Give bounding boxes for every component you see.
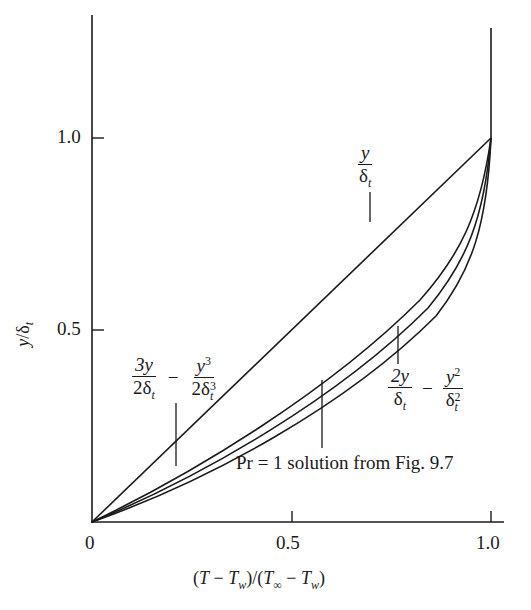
- fraction-den: δt: [356, 165, 374, 189]
- x-tick-label-0: 0: [85, 532, 95, 554]
- num-y: y: [197, 355, 205, 376]
- minus-sign: −: [422, 378, 433, 399]
- y-axis-label-delta: δ: [13, 325, 33, 333]
- num-sup: 2: [454, 365, 460, 379]
- x-tick-label-1: 1.0: [476, 532, 500, 554]
- y-tick-label-05: 0.5: [57, 318, 81, 340]
- x-label-T2: T: [228, 568, 238, 588]
- fraction-den: δt: [391, 388, 409, 412]
- den-delta: δ: [359, 165, 368, 186]
- den-delta: δ: [394, 388, 403, 409]
- y-axis-label-t: t: [22, 322, 36, 325]
- fraction-num: y: [358, 143, 372, 165]
- x-label-w2: w: [311, 578, 319, 592]
- fraction-quad-1: 2y δt: [388, 366, 412, 412]
- x-label-T4: T: [301, 568, 311, 588]
- fraction-num: 3y: [132, 355, 156, 377]
- minus-sign: −: [168, 367, 179, 388]
- fraction-num: 2y: [388, 366, 412, 388]
- fraction-quad-2: y2 δ2t: [443, 366, 464, 412]
- x-label-T1: T: [199, 568, 209, 588]
- annotation-cubic: 3y 2δt − y3 2δ3t: [130, 355, 219, 401]
- x-tick-label-05: 0.5: [276, 532, 300, 554]
- x-axis-label: (T − Tw)/(T∞ − Tw): [193, 568, 325, 593]
- fraction-num: y2: [443, 366, 463, 389]
- fraction-den: δ2t: [443, 389, 464, 412]
- den-sub: t: [455, 402, 461, 412]
- y-axis-label-y: y: [13, 339, 33, 347]
- x-label-w1: w: [238, 578, 246, 592]
- x-label-minus1: −: [214, 568, 224, 588]
- num-sup: 3: [205, 354, 211, 368]
- annotation-quadratic: 2y δt − y2 δ2t: [388, 366, 464, 412]
- den-sub: t: [403, 399, 406, 413]
- den-sub: t: [151, 388, 154, 402]
- annotation-linear: y δt: [356, 143, 374, 189]
- fraction-cubic-1: 3y 2δt: [130, 355, 158, 401]
- den-sub: t: [368, 176, 371, 190]
- fraction-linear: y δt: [356, 143, 374, 189]
- x-label-minus2: −: [286, 568, 296, 588]
- den-delta: 2δ: [133, 377, 151, 398]
- fraction-den: 2δt: [130, 377, 158, 401]
- annotation-pr1: Pr = 1 solution from Fig. 9.7: [236, 452, 454, 474]
- fraction-num: y3: [194, 355, 214, 378]
- x-label-inf: ∞: [273, 578, 282, 592]
- y-axis-label: y/δt: [13, 314, 38, 354]
- chart-plot-area: [0, 0, 531, 610]
- y-tick-label-1: 1.0: [57, 126, 81, 148]
- fraction-den: 2δ3t: [189, 378, 219, 401]
- den-delta: δ: [446, 389, 455, 410]
- den-supsub: 3t: [210, 381, 216, 401]
- den-sub: t: [210, 391, 216, 401]
- den-delta: 2δ: [192, 378, 210, 399]
- x-label-T3: T: [263, 568, 273, 588]
- fraction-cubic-2: y3 2δ3t: [189, 355, 219, 401]
- den-supsub: 2t: [455, 392, 461, 412]
